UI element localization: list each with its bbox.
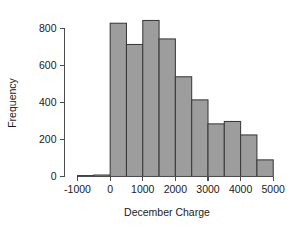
histogram-bar xyxy=(126,44,142,176)
histogram-bar xyxy=(208,124,224,177)
x-tick-label: 5000 xyxy=(262,183,286,195)
y-tick-label: 600 xyxy=(39,59,57,71)
histogram-bar xyxy=(241,135,257,177)
y-axis xyxy=(60,29,65,177)
y-tick-label: 0 xyxy=(51,170,57,182)
histogram-plot: 0200400600800 -1000010002000300040005000… xyxy=(0,0,295,228)
x-axis-title: December Charge xyxy=(124,206,210,218)
x-tick-label: 3000 xyxy=(196,183,220,195)
x-tick-label: 4000 xyxy=(229,183,253,195)
histogram-figure: 0200400600800 -1000010002000300040005000… xyxy=(0,0,295,228)
y-tick-label: 200 xyxy=(39,133,57,145)
x-tick-label: 0 xyxy=(107,183,113,195)
x-tick-label: 1000 xyxy=(131,183,155,195)
x-tick-label: 2000 xyxy=(164,183,188,195)
x-tick-label: -1000 xyxy=(64,183,91,195)
x-tick-labels: -1000010002000300040005000 xyxy=(64,183,285,195)
histogram-bar xyxy=(257,160,273,177)
histogram-bar xyxy=(110,23,126,176)
y-tick-label: 800 xyxy=(39,22,57,34)
histogram-bar xyxy=(175,77,191,177)
histogram-bar xyxy=(143,20,159,176)
x-axis xyxy=(78,177,274,182)
bars-group xyxy=(78,20,274,176)
histogram-bar xyxy=(224,121,240,176)
y-axis-title: Frequency xyxy=(6,77,18,127)
y-tick-labels: 0200400600800 xyxy=(39,22,57,182)
histogram-bar xyxy=(192,100,208,177)
histogram-bar xyxy=(159,39,175,177)
y-tick-label: 400 xyxy=(39,96,57,108)
